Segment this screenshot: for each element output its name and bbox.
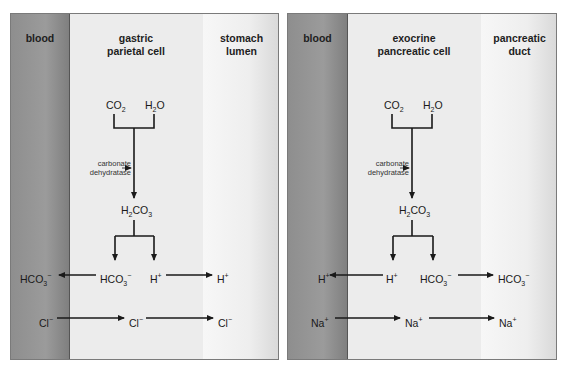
pancreatic-cell-zone bbox=[347, 14, 483, 359]
cell-header-line2: pancreatic cell bbox=[347, 45, 481, 58]
h2co3-label: H2CO3 bbox=[121, 204, 152, 221]
duct-header-line1: pancreatic bbox=[481, 32, 557, 45]
cl-cell-label: Cl− bbox=[129, 314, 143, 329]
parietal-cell-zone bbox=[69, 14, 205, 359]
h2o-label: H2O bbox=[423, 99, 443, 116]
gastric-panel: blood gastric parietal cell stomach lume… bbox=[10, 13, 279, 360]
na-duct-label: Na+ bbox=[499, 314, 517, 329]
hco3-cell-label: HCO3− bbox=[420, 270, 451, 290]
h2co3-label: H2CO3 bbox=[399, 204, 430, 221]
blood-header: blood bbox=[288, 32, 347, 45]
blood-label: blood bbox=[303, 32, 332, 44]
blood-zone bbox=[11, 14, 69, 359]
h-lumen-label: H+ bbox=[217, 270, 229, 285]
pancreatic-duct-zone bbox=[481, 14, 557, 359]
cell-header-line2: parietal cell bbox=[69, 45, 203, 58]
blood-zone bbox=[288, 14, 347, 359]
lumen-header: stomach lumen bbox=[203, 32, 279, 58]
lumen-header-line1: stomach bbox=[203, 32, 279, 45]
cl-blood-label: Cl− bbox=[39, 314, 53, 329]
duct-header: pancreatic duct bbox=[481, 32, 557, 58]
blood-header: blood bbox=[11, 32, 69, 45]
h-blood-label: H+ bbox=[318, 270, 330, 285]
h-cell-label: H+ bbox=[386, 270, 398, 285]
h-cell-label: H+ bbox=[150, 270, 162, 285]
hco3-duct-label: HCO3− bbox=[498, 270, 529, 290]
cell-header-line1: exocrine bbox=[347, 32, 481, 45]
na-blood-label: Na+ bbox=[311, 314, 329, 329]
hco3-cell-label: HCO3− bbox=[100, 270, 131, 290]
cell-header: gastric parietal cell bbox=[69, 32, 203, 58]
cl-lumen-label: Cl− bbox=[218, 314, 232, 329]
cell-header-line1: gastric bbox=[69, 32, 203, 45]
na-cell-label: Na+ bbox=[405, 314, 423, 329]
stomach-lumen-zone bbox=[203, 14, 279, 359]
lumen-header-line2: lumen bbox=[203, 45, 279, 58]
enzyme-label: carbonate dehydratase bbox=[77, 159, 131, 177]
cell-header: exocrine pancreatic cell bbox=[347, 32, 481, 58]
enzyme-label: carbonate dehydratase bbox=[355, 159, 409, 177]
h2o-label: H2O bbox=[145, 99, 165, 116]
duct-header-line2: duct bbox=[481, 45, 557, 58]
co2-label: CO2 bbox=[106, 99, 126, 116]
pancreatic-panel: blood exocrine pancreatic cell pancreati… bbox=[287, 13, 557, 360]
blood-label: blood bbox=[26, 32, 55, 44]
co2-label: CO2 bbox=[384, 99, 404, 116]
hco3-blood-label: HCO3− bbox=[20, 270, 51, 290]
